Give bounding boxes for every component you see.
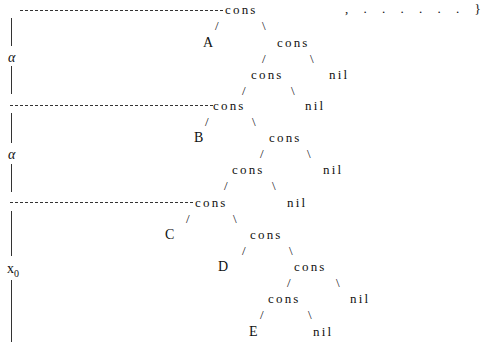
nil-node: nil	[323, 163, 343, 177]
cons-node: cons	[213, 99, 246, 113]
right-branch: \	[308, 308, 314, 322]
nil-node: nil	[350, 292, 370, 306]
right-branch: \	[252, 115, 258, 129]
cons-node: cons	[195, 196, 228, 210]
left-branch: /	[287, 276, 293, 290]
axis-line-2a	[11, 113, 12, 143]
dashed-connector-1	[20, 10, 223, 11]
leaf-e: E	[249, 325, 258, 339]
cons-node: cons	[251, 68, 284, 82]
left-branch: /	[242, 244, 248, 258]
left-branch: /	[262, 52, 268, 66]
cons-node: cons	[269, 131, 302, 145]
left-branch: /	[205, 115, 211, 129]
alpha-label-2: α	[8, 148, 15, 162]
right-branch: \	[233, 212, 239, 226]
cons-node: cons	[250, 228, 283, 242]
left-branch: /	[260, 308, 266, 322]
nil-node: nil	[329, 68, 349, 82]
nil-node: nil	[313, 325, 333, 339]
x-subscript: 0	[14, 268, 19, 279]
nil-node: nil	[287, 196, 307, 210]
axis-line-3a	[11, 211, 12, 256]
cons-node: cons	[268, 292, 301, 306]
axis-line-3b	[11, 280, 12, 342]
alpha-label-1: α	[8, 51, 15, 65]
leaf-d: D	[218, 260, 228, 274]
right-branch: \	[310, 52, 316, 66]
leaf-b: B	[194, 131, 203, 145]
axis-line-1b	[11, 66, 12, 94]
right-branch: \	[289, 244, 295, 258]
dashed-connector-2	[10, 105, 213, 106]
x0-label: x0	[7, 262, 19, 281]
leaf-a: A	[203, 36, 213, 50]
cons-node: cons	[232, 163, 265, 177]
leaf-c: C	[165, 228, 174, 242]
left-branch: /	[242, 84, 248, 98]
dashed-connector-3	[10, 202, 193, 203]
left-branch: /	[224, 179, 230, 193]
left-branch: /	[215, 19, 221, 33]
ellipsis-continuation: , . . . . . . }	[345, 2, 485, 16]
right-branch: \	[262, 19, 268, 33]
cons-node: cons	[294, 260, 327, 274]
nil-node: nil	[305, 99, 325, 113]
right-branch: \	[291, 84, 297, 98]
left-branch: /	[260, 147, 266, 161]
x-label: x	[7, 261, 14, 276]
right-branch: \	[307, 147, 313, 161]
cons-node: cons	[225, 3, 258, 17]
axis-line-2b	[11, 164, 12, 192]
axis-line-1a	[11, 18, 12, 46]
left-branch: /	[186, 212, 192, 226]
cons-node: cons	[277, 36, 310, 50]
right-branch: \	[336, 276, 342, 290]
right-branch: \	[272, 179, 278, 193]
